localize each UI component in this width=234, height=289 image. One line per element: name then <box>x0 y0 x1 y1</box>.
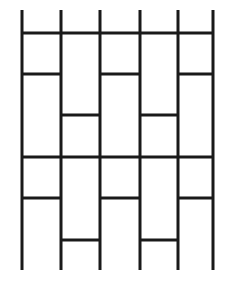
lattice-figure <box>0 0 234 289</box>
lattice-figure-canvas <box>0 0 234 289</box>
figure-background <box>0 0 234 289</box>
